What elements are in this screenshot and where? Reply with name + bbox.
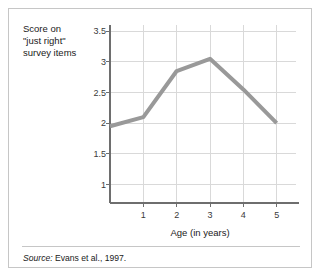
- x-tick-label: 1: [141, 210, 146, 220]
- x-tick-label: 4: [241, 210, 246, 220]
- y-tick-label: 2.5: [93, 88, 106, 98]
- x-axis-tick-labels: 12345: [110, 210, 300, 224]
- x-tick-label: 5: [274, 210, 279, 220]
- y-axis-tick-labels: 11.522.533.5: [67, 25, 106, 203]
- plot-area: [110, 25, 290, 203]
- axis-lines: [110, 25, 299, 203]
- horizontal-gridlines: [110, 31, 296, 184]
- y-tick-label: 3.5: [93, 26, 106, 36]
- footer-divider: [22, 246, 300, 247]
- x-tick-label: 3: [207, 210, 212, 220]
- y-tick-label: 1.5: [93, 149, 106, 159]
- y-tick-label: 1: [101, 180, 106, 190]
- figure-frame: Score on "just right" survey items 11.52…: [8, 8, 312, 268]
- vertical-gridlines: [143, 25, 276, 203]
- x-axis-title: Age (in years): [110, 227, 290, 238]
- y-tick-label: 2: [101, 118, 106, 128]
- x-tick-label: 2: [174, 210, 179, 220]
- source-label: Source:: [23, 253, 53, 263]
- source-note: Source: Evans et al., 1997.: [23, 253, 126, 263]
- y-tick-label: 3: [101, 57, 106, 67]
- line-chart-svg: [110, 25, 300, 211]
- source-citation: Evans et al., 1997.: [53, 253, 127, 263]
